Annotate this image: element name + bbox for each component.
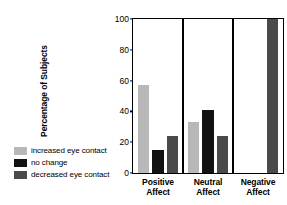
legend-item-increased-eye-contact: increased eye contact xyxy=(14,145,134,156)
x-axis-group-label-line: Affect xyxy=(233,187,283,197)
legend-swatch-no-change xyxy=(14,159,27,167)
legend-swatch-increased-eye-contact xyxy=(14,147,27,155)
plot-area: 020406080100PositiveAffectNeutralAffectN… xyxy=(132,18,284,174)
y-axis-tick-mark xyxy=(130,80,134,81)
y-axis-tick-mark xyxy=(130,111,134,112)
bar xyxy=(167,136,179,173)
x-axis-group-label: NegativeAffect xyxy=(233,177,283,197)
x-axis-group-label-line: Affect xyxy=(183,187,233,197)
chart-legend: increased eye contact no change decrease… xyxy=(14,145,134,181)
legend-item-no-change: no change xyxy=(14,157,134,168)
group-divider-line xyxy=(182,19,183,173)
bar xyxy=(138,85,150,173)
legend-label-decreased-eye-contact: decreased eye contact xyxy=(31,170,109,179)
x-axis-group-label-line: Neutral xyxy=(183,177,233,187)
legend-label-no-change: no change xyxy=(31,158,67,167)
y-axis-tick-mark xyxy=(130,142,134,143)
legend-item-decreased-eye-contact: decreased eye contact xyxy=(14,169,134,180)
group-divider-line xyxy=(232,19,233,173)
x-axis-group-label-line: Positive xyxy=(133,177,183,187)
y-axis-tick-mark xyxy=(130,172,134,173)
bar xyxy=(267,19,279,173)
y-axis-tick-mark xyxy=(130,49,134,50)
y-axis-tick-mark xyxy=(130,18,134,19)
legend-swatch-decreased-eye-contact xyxy=(14,171,27,179)
bar-chart-figure: increased eye contact no change decrease… xyxy=(0,0,287,205)
x-axis-group-label: PositiveAffect xyxy=(133,177,183,197)
bar xyxy=(217,136,229,173)
x-axis-group-label-line: Affect xyxy=(133,187,183,197)
y-axis-title: Percentage of Subjects xyxy=(39,11,49,171)
bar xyxy=(188,122,200,173)
x-axis-group-label-line: Negative xyxy=(233,177,283,187)
bar xyxy=(202,110,214,173)
x-axis-group-label: NeutralAffect xyxy=(183,177,233,197)
bar xyxy=(152,150,164,173)
